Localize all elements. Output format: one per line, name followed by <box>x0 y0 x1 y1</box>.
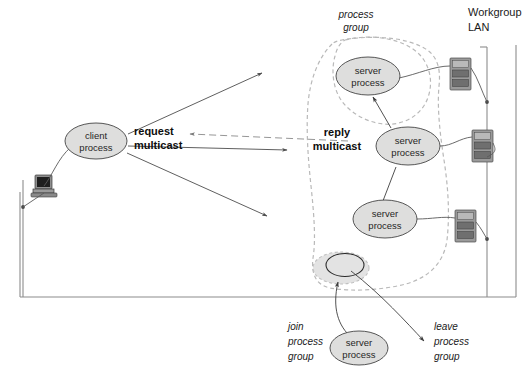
leave-process-group-arrow <box>351 271 424 341</box>
link-server1-host1 <box>399 66 450 78</box>
link-server3-host3 <box>417 217 455 219</box>
process-group-label-line1: process <box>337 9 373 20</box>
server-process-1-ellipse[interactable] <box>336 57 400 95</box>
join-process-group-arrow <box>336 282 352 338</box>
monitor-screen <box>37 177 50 187</box>
workgroup-lan-label-line2: LAN <box>468 21 489 33</box>
server-process-4-node[interactable]: server process <box>330 331 388 365</box>
leave-label-line3: group <box>434 351 460 362</box>
server-process-3-label-line2: process <box>368 220 402 231</box>
server-process-2-node[interactable]: server process <box>376 127 440 165</box>
join-label-line3: group <box>288 351 314 362</box>
server-bay-bottom <box>453 80 469 87</box>
client-process-label-line2: process <box>79 142 113 153</box>
server-process-3-node[interactable]: server process <box>353 200 417 238</box>
server-host-2-icon <box>472 130 493 162</box>
server-process-4-label-line1: server <box>346 337 372 348</box>
server-bay-bottom <box>475 152 491 159</box>
server-bay-top <box>453 61 469 68</box>
server-host-3-icon <box>455 210 476 242</box>
request-multicast-label-line1: request <box>134 125 174 137</box>
join-label-line2: process <box>287 336 323 347</box>
workgroup-lan-label-line1: Workgroup <box>468 6 522 18</box>
server-host-1-icon <box>450 58 471 90</box>
server-bay-mid <box>475 142 491 149</box>
link-server2-host2 <box>440 137 472 146</box>
monitor-stand <box>33 189 54 193</box>
leave-label-line2: process <box>433 336 469 347</box>
client-process-label-line1: client <box>85 130 108 141</box>
server-process-1-label-line2: process <box>351 77 385 88</box>
server-process-2-ellipse[interactable] <box>376 127 440 165</box>
link-host1-lan <box>471 68 487 102</box>
process-group-label-line2: group <box>343 22 369 33</box>
server-process-4-label-line2: process <box>342 349 376 360</box>
server-bay-mid <box>453 70 469 77</box>
reply-multicast-label-line1: reply <box>324 126 351 138</box>
diagram-canvas: client process server process server pro… <box>0 0 528 378</box>
network-diagram: client process server process server pro… <box>0 0 528 378</box>
keyboard <box>31 193 57 197</box>
leave-label-line1: leave <box>434 321 458 332</box>
server-bay-top <box>475 133 491 140</box>
process-nodes: client process server process server pro… <box>65 57 440 365</box>
server-process-2-label-line2: process <box>391 147 425 158</box>
reply-multicast-label-line2: multicast <box>313 140 362 152</box>
server-process-2-label-line1: server <box>395 135 421 146</box>
client-process-node[interactable]: client process <box>65 123 127 159</box>
client-process-ellipse[interactable] <box>65 123 127 159</box>
request-multicast-label-line2: multicast <box>134 139 183 151</box>
link-client-process-pc <box>44 147 71 186</box>
join-label-line1: join <box>286 321 304 332</box>
server-bay-mid <box>458 222 474 229</box>
server-process-1-node[interactable]: server process <box>336 57 400 95</box>
diagram-frame <box>20 45 516 297</box>
link-host3-lan <box>476 222 487 239</box>
server-process-1-label-line1: server <box>355 65 381 76</box>
workgroup-lan-backbone <box>480 47 489 297</box>
server-bay-bottom <box>458 232 474 239</box>
client-lan-segment <box>21 180 25 297</box>
server-process-3-ellipse[interactable] <box>353 200 417 238</box>
server-bay-top <box>458 213 474 220</box>
server-process-3-label-line1: server <box>372 208 398 219</box>
request-arrow-bottom <box>127 153 267 216</box>
